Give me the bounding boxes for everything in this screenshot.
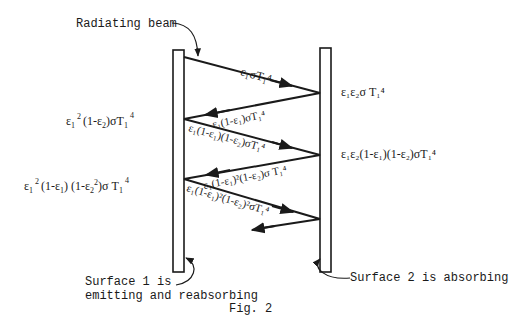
surface-2-label: Surface 2 is absorbing [350, 271, 508, 285]
beam-label-5: ε₁(1-ε₁)²(1-ε₂)²σT₁⁴ [185, 181, 271, 217]
surface-1-plate [173, 50, 184, 272]
left-label-1: ε12(1-ε2)σT14 [66, 111, 134, 130]
figure-caption: Fig. 2 [229, 302, 272, 316]
radiating-beam-label: Radiating beam [76, 17, 177, 31]
beam-label-1: ε₁σT₁⁴ [239, 64, 273, 86]
surface-1-label-line2: emitting and reabsorbing [85, 289, 258, 303]
left-label-2: ε12(1-ε1) (1-ε22)σ T14 [24, 176, 129, 195]
surface-1-label-line1: Surface 1 is [85, 275, 171, 289]
surface-2-plate [320, 48, 331, 272]
right-label-1: ε₁ε₂σ T₁⁴ [341, 85, 385, 99]
figure-canvas: Radiating beam Surface 1 is emitting and… [0, 0, 517, 318]
right-label-2: ε₁ε₂(1-ε₁)(1-ε₂)σT₁⁴ [341, 147, 436, 161]
